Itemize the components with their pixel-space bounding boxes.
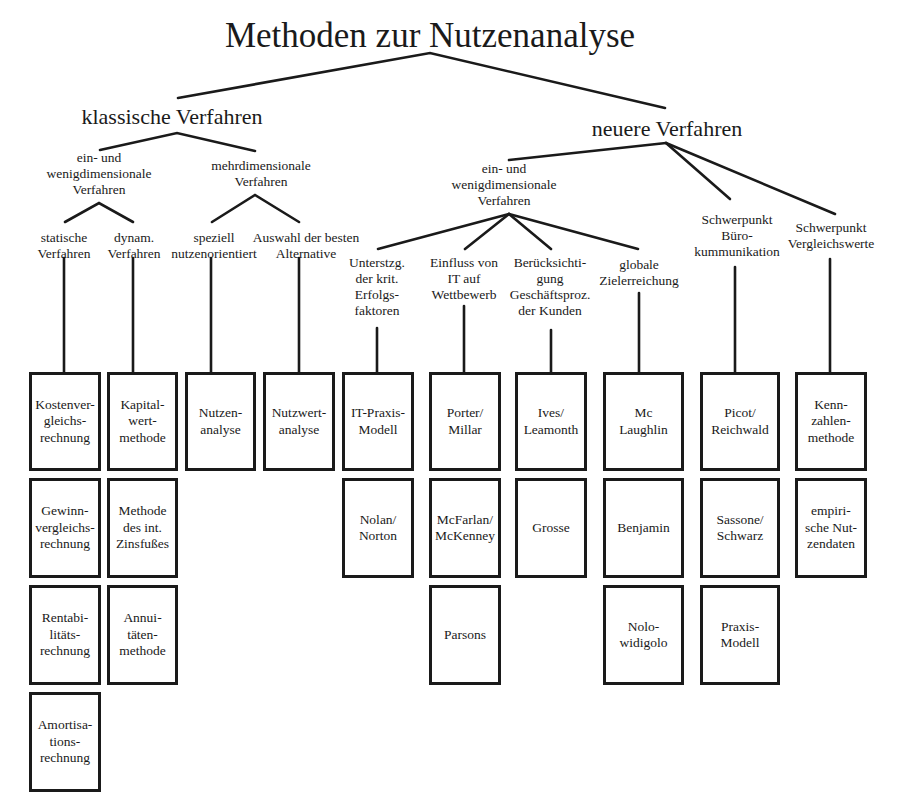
connector-classic-mehr [212,195,299,222]
method-box: Sassone/ Schwarz [700,478,780,578]
method-box: Nutzen- analyse [185,372,256,471]
sub-auswahl-beste-alternative: Auswahl der besten Alternative [253,230,359,262]
method-box: Kapital- wert- methode [107,372,178,471]
method-box: Grosse [515,478,587,578]
group-classic-ein-wenigdimensional: ein- und wenigdimensionale Verfahren [47,150,152,198]
sub-speziell-nutzenorientiert: speziell nutzenorientiert [171,230,256,262]
group-classic-mehrdimensional: mehrdimensionale Verfahren [211,158,311,190]
method-box: Ives/ Leamonth [515,372,587,471]
connector-classic-ein [65,203,133,222]
connector-newer-ein [509,143,666,160]
sub-dynamische-verfahren: dynam. Verfahren [107,230,160,262]
method-box: Praxis- Modell [700,585,780,685]
method-box: Kenn- zahlen- methode [795,372,867,471]
method-box: Nutzwert- analyse [263,372,335,471]
branch-klassische-verfahren: klassische Verfahren [81,106,262,128]
sub-unterstuetzung-erfolgsfaktoren: Unterstzg. der krit. Erfolgs- faktoren [349,255,405,319]
connector-classic [100,133,255,151]
group-newer-ein-wenigdimensional: ein- und wenigdimensionale Verfahren [452,161,557,209]
group-newer-vergleichswerte: Schwerpunkt Vergleichswerte [788,220,875,252]
group-newer-buerokommunikation: Schwerpunkt Büro- kummunikation [694,212,780,260]
method-box: Amortisa- tions- rechnung [29,692,101,792]
method-box: Porter/ Millar [429,372,501,471]
method-box: Kostenver- gleichs- rechnung [29,372,101,471]
sub-einfluss-it-wettbewerb: Einfluss von IT auf Wettbewerb [430,255,498,303]
sub-geschaeftsprozesse-kunden: Berücksichti- gung Geschäftsproz. der Ku… [510,255,591,319]
method-box: Mc Laughlin [603,372,684,471]
method-box: IT-Praxis- Modell [342,372,414,471]
method-box: Benjamin [603,478,684,578]
method-box: Rentabi- litäts- rechnung [29,585,101,685]
method-box: Annui- täten- methode [107,585,178,685]
connector-root [178,53,665,108]
method-box: Methode des int. Zinsfußes [107,478,178,578]
method-box: Parsons [429,585,501,685]
branch-neuere-verfahren: neuere Verfahren [592,118,742,140]
method-box: Nolo- widigolo [603,585,684,685]
method-box: Gewinn- vergleichs- rechnung [29,478,101,578]
diagram-title: Methoden zur Nutzenanalyse [225,18,635,53]
method-box: Picot/ Reichwald [700,372,780,471]
sub-statische-verfahren: statische Verfahren [37,230,90,262]
method-box: empiri- sche Nut- zendaten [795,478,867,578]
method-box: Nolan/ Norton [342,478,414,578]
sub-globale-zielerreichung: globale Zielerreichung [599,257,678,289]
method-box: McFarlan/ McKenney [429,478,501,578]
